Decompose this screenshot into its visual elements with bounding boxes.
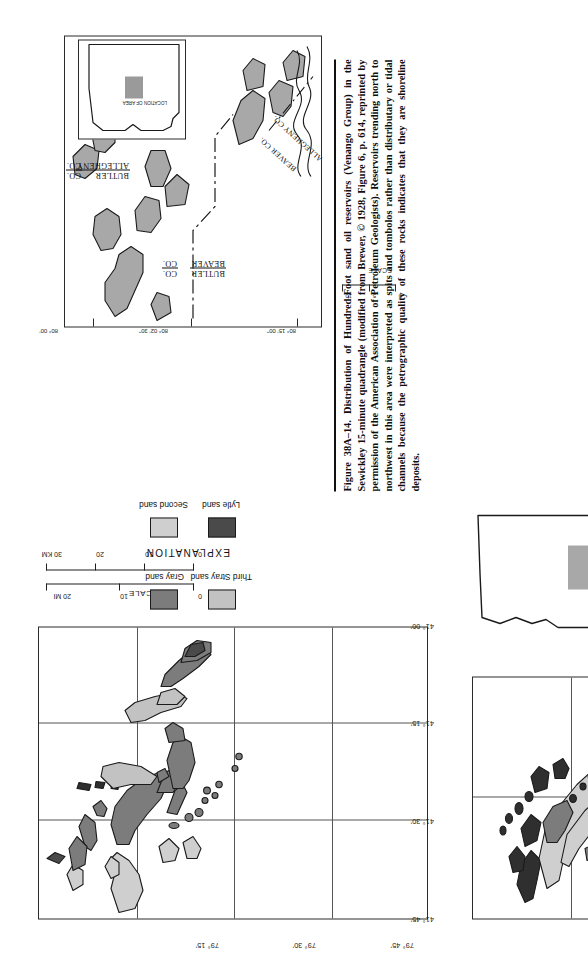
explanation-legend: EXPLANATION Lytle sand Second sand Third… <box>30 491 300 571</box>
map-right-lon-label-79-15: 79° 15' <box>195 940 219 949</box>
map-right-lon-label-79-30: 79° 30' <box>292 940 316 949</box>
map-left-lon-label-1: 80° 00' <box>39 327 58 333</box>
caption-text: Figure 38A–14. Distribution of Hundred-F… <box>341 59 422 491</box>
legend-swatch-gray <box>150 589 178 609</box>
county-suffix-top-2: CO. <box>66 169 82 179</box>
legend-label-gray: Gray sand <box>145 571 184 581</box>
scale-miles-unit: 20 MI <box>53 592 71 599</box>
scale-miles-label-10: 10 <box>120 592 128 599</box>
county-suffix-bottom-2: CO. <box>66 160 82 169</box>
explanation-title: EXPLANATION <box>145 546 230 557</box>
county-label-butler-allegheny: BUTLER ALLEGHENY <box>76 160 130 179</box>
location-inset-outline <box>472 511 588 633</box>
figure-page: 79° 45' 79° 30' 79° 15' 41° 45' 41° 30' … <box>0 0 588 963</box>
legend-swatch-lytle <box>208 517 236 537</box>
scale-miles-tick-10 <box>119 583 120 590</box>
map-right-lat-label-41-15: 41° 15' <box>410 718 434 727</box>
county-suffix-butler-beaver: CO. CO. <box>162 258 178 277</box>
scale-miles-tick-0 <box>193 583 194 590</box>
map-left-lon-label-2: 80° 02' 30" <box>139 327 168 333</box>
map-right-panel <box>38 626 428 919</box>
map-right-lat-label-41-45: 41° 45' <box>410 914 434 923</box>
county-label-butler: BUTLER <box>190 267 226 277</box>
county-label-butler-beaver: BUTLER BEAVER <box>190 258 226 277</box>
county-suffix-butler-allegheny: CO. CO. <box>66 160 82 179</box>
map-left-inset-outline <box>79 38 187 138</box>
legend-label-second: Second sand <box>139 499 188 509</box>
county-label-butler-2: BUTLER <box>76 169 130 179</box>
map-right-lon-label-79-45: 79° 45' <box>390 940 414 949</box>
map-left-tick-2 <box>191 318 192 326</box>
legend-label-third-stray: Third Stray sand <box>191 571 252 581</box>
county-label-beaver: BEAVER <box>190 258 226 267</box>
map-middle-polygons <box>473 675 588 918</box>
map-left-inset-panel: LOCATION OF AREA <box>78 39 186 139</box>
figure-caption: Figure 38A–14. Distribution of Hundred-F… <box>334 59 422 491</box>
scale-miles-label-0: 0 <box>198 592 202 599</box>
map-left-tick-3 <box>297 318 298 326</box>
map-left-tick-1 <box>93 318 94 326</box>
map-right-polygons <box>39 625 429 918</box>
county-suffix-top-1: CO. <box>162 267 178 277</box>
county-suffix-bottom-1: CO. <box>162 258 178 267</box>
legend-label-lytle: Lytle sand <box>202 499 240 509</box>
location-of-area-inset: Location of area <box>472 511 588 633</box>
map-right-lat-label-41-30: 41° 30' <box>410 816 434 825</box>
map-left-lon-label-3: 80° 15' 00" <box>267 327 296 333</box>
county-label-allegheny: ALLEGHENY <box>76 160 130 169</box>
legend-swatch-second <box>150 517 178 537</box>
legend-swatch-third-stray <box>208 589 236 609</box>
map-left-inset-label: LOCATION OF AREA <box>123 99 167 104</box>
scale-miles-tick-20 <box>46 583 47 590</box>
map-middle-panel <box>472 676 588 919</box>
caption-rule <box>334 59 336 491</box>
map-right-lat-label-41-00: 41° 00' <box>410 621 434 630</box>
